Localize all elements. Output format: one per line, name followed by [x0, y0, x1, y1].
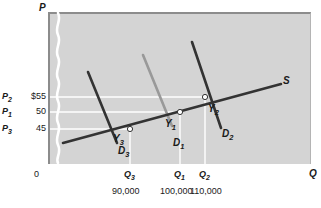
quantity-tick-q2: Q2 — [199, 169, 210, 181]
origin-label: 0 — [34, 169, 39, 179]
price-level-p3-name: P3 — [2, 123, 12, 135]
equilibrium-marker-y3 — [127, 126, 132, 131]
quantity-value-q3: 90,000 — [112, 186, 140, 196]
curve-label-demand-3: D3 — [118, 145, 129, 159]
equilibrium-label-y1: Y1 — [165, 118, 176, 132]
curve-label-supply: S — [283, 75, 290, 86]
equilibrium-marker-y2 — [202, 94, 207, 99]
price-level-p1-name: P1 — [2, 106, 12, 118]
price-level-p3: P3 45 — [2, 123, 46, 135]
price-level-p1-value: 50 — [36, 106, 46, 116]
curve-label-demand-2: D2 — [222, 128, 233, 142]
x-axis-label: Q — [309, 168, 317, 179]
equilibrium-label-y3: Y3 — [113, 133, 124, 147]
equilibrium-marker-y1 — [177, 109, 182, 114]
quantity-tick-q1: Q1 — [174, 169, 185, 181]
equilibrium-label-y2: Y2 — [208, 103, 219, 117]
quantity-value-q2: 110,000 — [190, 186, 222, 196]
curve-label-demand-1: D1 — [173, 137, 184, 151]
y-axis-label: P — [39, 2, 46, 13]
price-level-p2-value: $55 — [31, 91, 46, 101]
price-level-p2: P2 $55 — [2, 91, 46, 103]
quantity-value-q1: 100,000 — [160, 186, 193, 196]
price-level-p1: P1 50 — [2, 106, 46, 118]
quantity-tick-q3: Q3 — [124, 169, 135, 181]
axis-break-squiggle — [57, 13, 59, 163]
chart-overlay — [0, 0, 321, 208]
price-level-p3-value: 45 — [36, 123, 46, 133]
supply-demand-figure: P Q 0 P2 $55 P1 50 P3 45 Q3 Q1 Q2 90,000… — [0, 0, 321, 208]
price-level-p2-name: P2 — [2, 91, 12, 103]
